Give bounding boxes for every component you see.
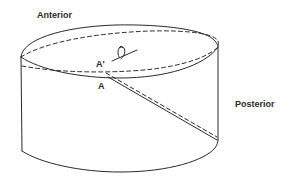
top-ellipse-back <box>21 25 218 57</box>
point-a-prime-label: A' <box>96 60 105 69</box>
point-a-label: A <box>98 82 105 91</box>
top-ellipse-front <box>21 47 218 78</box>
cylinder-bottom-arc <box>22 140 218 172</box>
cylinder-diagram <box>0 0 302 179</box>
oblique-section-dashed-line <box>106 73 217 137</box>
posterior-label: Posterior <box>235 100 275 109</box>
anterior-label: Anterior <box>37 11 72 20</box>
oblique-section-line <box>108 77 217 140</box>
section-ellipse-front <box>22 47 218 72</box>
cylinder-left-edge <box>21 57 22 151</box>
